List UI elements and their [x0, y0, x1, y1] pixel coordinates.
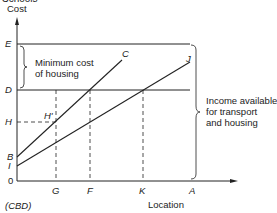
label-J: J [186, 53, 191, 64]
label-G: G [52, 185, 59, 196]
label-D: D [5, 84, 12, 95]
x-axis-arrow [230, 179, 238, 183]
label-H: H [5, 116, 12, 127]
label-F: F [87, 185, 93, 196]
label-origin: 0 [8, 175, 13, 186]
label-K: K [139, 185, 145, 196]
label-C: C [122, 48, 129, 59]
brace-income [191, 45, 200, 179]
income-line3: and housing [206, 117, 258, 128]
y-axis-arrow [15, 17, 19, 25]
income-line1: Income available [206, 95, 277, 106]
income-line2: for transport [206, 106, 257, 117]
x-axis-label: Location [148, 199, 184, 210]
min-cost-line1: Minimum cost [35, 57, 94, 68]
label-E: E [5, 38, 11, 49]
min-cost-line2: of housing [35, 68, 79, 79]
brace-min-cost [20, 46, 27, 88]
label-I: I [8, 160, 11, 171]
label-A: A [189, 185, 195, 196]
label-H-prime: H' [44, 110, 53, 121]
y-axis-label: Cost [7, 3, 27, 14]
origin-note: (CBD) [5, 200, 31, 211]
